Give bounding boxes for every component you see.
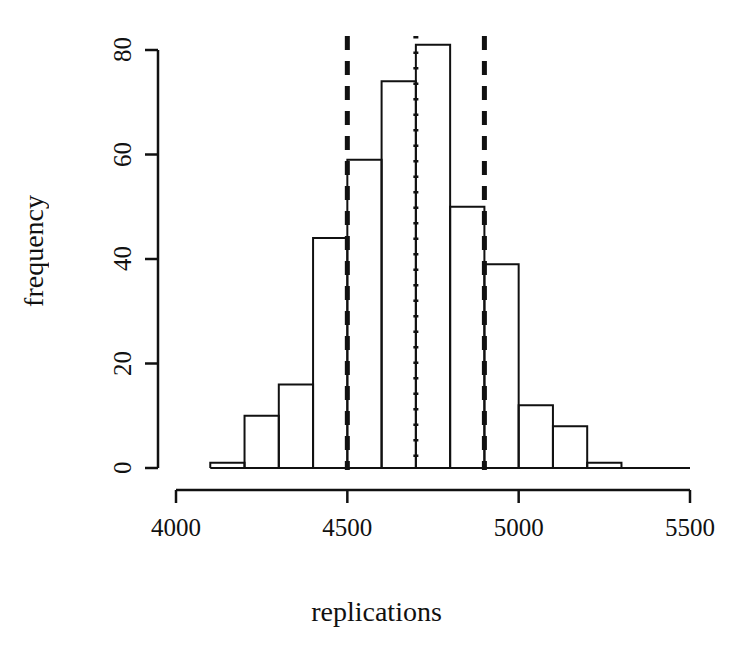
- histogram-bar: [519, 405, 553, 468]
- y-tick-label: 60: [106, 129, 138, 181]
- x-tick-label: 4000: [116, 515, 236, 540]
- histogram-bar: [245, 416, 279, 468]
- y-axis-title: frequency: [18, 195, 50, 307]
- y-tick-label: 80: [106, 24, 138, 76]
- x-axis: [176, 490, 690, 503]
- histogram-figure: 020406080 4000450050005500 frequency rep…: [0, 0, 753, 649]
- y-tick-label: 20: [106, 338, 138, 390]
- y-tick-label: 40: [106, 233, 138, 285]
- histogram-bar: [382, 81, 416, 468]
- histogram-bar: [279, 384, 313, 468]
- histogram-bar: [416, 45, 450, 468]
- histogram-bar: [347, 160, 381, 468]
- y-axis: [145, 50, 158, 468]
- plot-canvas: [0, 0, 753, 649]
- histogram-bar: [553, 426, 587, 468]
- x-tick-label: 5000: [459, 515, 579, 540]
- y-tick-label: 0: [106, 442, 138, 494]
- plot-area: [0, 0, 753, 649]
- histogram-bar: [313, 238, 347, 468]
- histogram-bar: [450, 207, 484, 468]
- x-tick-label: 5500: [630, 515, 750, 540]
- histogram-bars: [210, 45, 690, 468]
- x-tick-label: 4500: [287, 515, 407, 540]
- x-axis-title: replications: [0, 596, 753, 628]
- histogram-bar: [484, 264, 518, 468]
